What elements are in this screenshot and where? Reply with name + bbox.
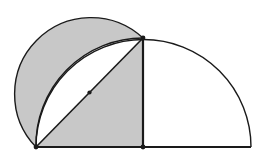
midpoint-dot-M	[87, 90, 91, 94]
geometry-figure-container: Semicircle with inscribed right triangle…	[0, 0, 259, 162]
vertex-dot-A	[34, 145, 39, 150]
vertex-dot-B	[141, 36, 146, 41]
geometry-diagram-svg: Semicircle with inscribed right triangle…	[0, 0, 259, 162]
vertex-dot-C	[141, 145, 146, 150]
